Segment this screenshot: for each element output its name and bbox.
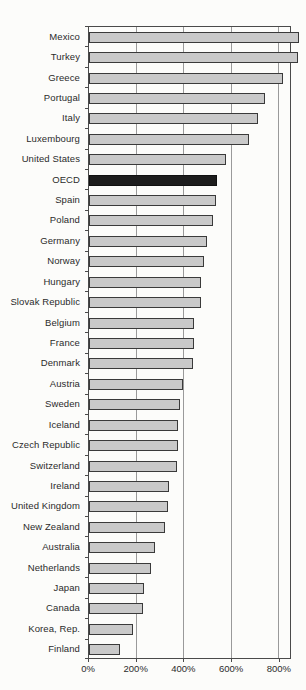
bar-row [89,415,290,435]
bar-germany [89,236,207,247]
y-axis-tick [85,394,88,395]
y-axis-tick [85,271,88,272]
category-label-poland: Poland [0,210,80,230]
y-axis-tick [85,87,88,88]
y-axis-tick [85,149,88,150]
bar-row [89,476,290,496]
y-axis-tick [85,618,88,619]
value-axis-labels: 0%200%400%600%800% [0,663,306,677]
bar-row [89,211,290,231]
bar-australia [89,542,155,553]
category-label-japan: Japan [0,577,80,597]
bar-ireland [89,481,169,492]
y-axis-tick [85,496,88,497]
bar-row [89,640,290,660]
x-axis-label-0: 0% [81,663,95,674]
y-axis-tick [85,230,88,231]
y-axis-tick [85,557,88,558]
category-label-norway: Norway [0,251,80,271]
bar-greece [89,73,283,84]
bar-row [89,619,290,639]
y-axis-tick [85,291,88,292]
bar-row [89,292,290,312]
bar-oecd [89,175,217,186]
category-label-oecd: OECD [0,169,80,189]
y-axis-tick [85,312,88,313]
category-label-turkey: Turkey [0,46,80,66]
category-label-netherlands: Netherlands [0,557,80,577]
category-label-germany: Germany [0,230,80,250]
bar-austria [89,379,183,390]
bar-slovak-republic [89,297,201,308]
bar-row [89,537,290,557]
y-axis-tick [85,189,88,190]
bar-row [89,374,290,394]
bar-row [89,47,290,67]
category-label-finland: Finland [0,639,80,659]
bar-row [89,231,290,251]
bar-row [89,517,290,537]
bar-chart-figure: MexicoTurkeyGreecePortugalItalyLuxembour… [0,0,306,690]
bar-canada [89,603,143,614]
bar-row [89,435,290,455]
category-label-hungary: Hungary [0,271,80,291]
bar-norway [89,256,204,267]
category-label-spain: Spain [0,189,80,209]
bar-row [89,129,290,149]
y-axis-tick [85,577,88,578]
category-label-united-states: United States [0,149,80,169]
category-label-france: France [0,332,80,352]
category-label-iceland: Iceland [0,414,80,434]
bar-row [89,313,290,333]
category-label-slovak-republic: Slovak Republic [0,291,80,311]
category-label-korea-rep: Korea, Rep. [0,618,80,638]
category-label-greece: Greece [0,67,80,87]
bar-row [89,109,290,129]
bar-poland [89,215,213,226]
bar-iceland [89,420,178,431]
x-axis-label-600: 600% [219,663,243,674]
bar-row [89,88,290,108]
bar-row [89,333,290,353]
bar-row [89,497,290,517]
bar-united-kingdom [89,501,168,512]
bar-row [89,395,290,415]
bar-new-zealand [89,522,165,533]
x-axis-label-800: 800% [267,663,291,674]
bar-czech-republic [89,440,178,451]
bar-row [89,150,290,170]
bar-hungary [89,277,201,288]
bar-row [89,272,290,292]
x-axis-tick-200 [136,659,137,662]
category-label-united-kingdom: United Kingdom [0,496,80,516]
bar-row [89,68,290,88]
bar-mexico [89,32,299,43]
category-label-australia: Australia [0,536,80,556]
x-axis-tick-800 [279,659,280,662]
bar-row [89,456,290,476]
y-axis-tick [85,373,88,374]
bar-france [89,338,194,349]
y-axis-tick [85,332,88,333]
y-axis-tick [85,434,88,435]
category-label-mexico: Mexico [0,26,80,46]
y-axis-tick [85,639,88,640]
bar-finland [89,644,120,655]
y-axis-tick [85,210,88,211]
y-axis-tick [85,353,88,354]
y-axis-tick [85,414,88,415]
bar-row [89,27,290,47]
bar-sweden [89,399,180,410]
category-label-switzerland: Switzerland [0,455,80,475]
category-label-belgium: Belgium [0,312,80,332]
y-axis-tick [85,169,88,170]
bar-korea-rep [89,624,133,635]
bar-row [89,252,290,272]
category-label-new-zealand: New Zealand [0,516,80,536]
y-axis-tick [85,46,88,47]
y-axis-tick [85,475,88,476]
category-label-luxembourg: Luxembourg [0,128,80,148]
y-axis-tick [85,26,88,27]
y-axis-tick [85,598,88,599]
bar-luxembourg [89,134,249,145]
